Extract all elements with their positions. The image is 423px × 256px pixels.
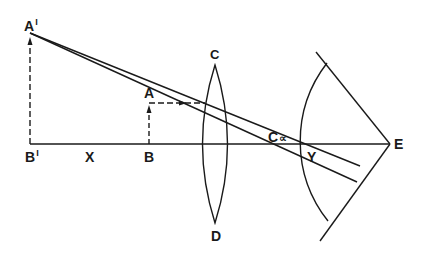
label-b-prime-mark: I — [36, 148, 39, 158]
label-a-prime: AI — [24, 19, 38, 33]
image-arrowhead-icon — [28, 37, 33, 45]
label-b: B — [144, 150, 154, 164]
eye-line-upper — [316, 52, 390, 144]
label-x: X — [85, 150, 94, 164]
label-a: A — [144, 86, 154, 100]
label-b-prime: BI — [25, 150, 39, 164]
label-c-infinity-letter: C — [268, 129, 278, 145]
label-e: E — [394, 137, 403, 151]
label-c: C — [210, 48, 219, 61]
label-b-prime-letter: B — [25, 149, 35, 165]
label-infinity-mark: ∝ — [279, 132, 287, 144]
label-a-prime-letter: A — [24, 18, 34, 34]
label-a-prime-mark: I — [35, 17, 38, 27]
object-arrowhead-icon — [147, 105, 152, 113]
field-of-view-arc — [300, 63, 328, 221]
ray-upper — [30, 33, 360, 166]
ray-diagram — [0, 0, 423, 256]
eye-line-lower — [320, 144, 390, 241]
label-d: D — [211, 229, 221, 243]
label-c-infinity: C∝ — [268, 130, 287, 144]
label-y: Y — [307, 150, 316, 164]
